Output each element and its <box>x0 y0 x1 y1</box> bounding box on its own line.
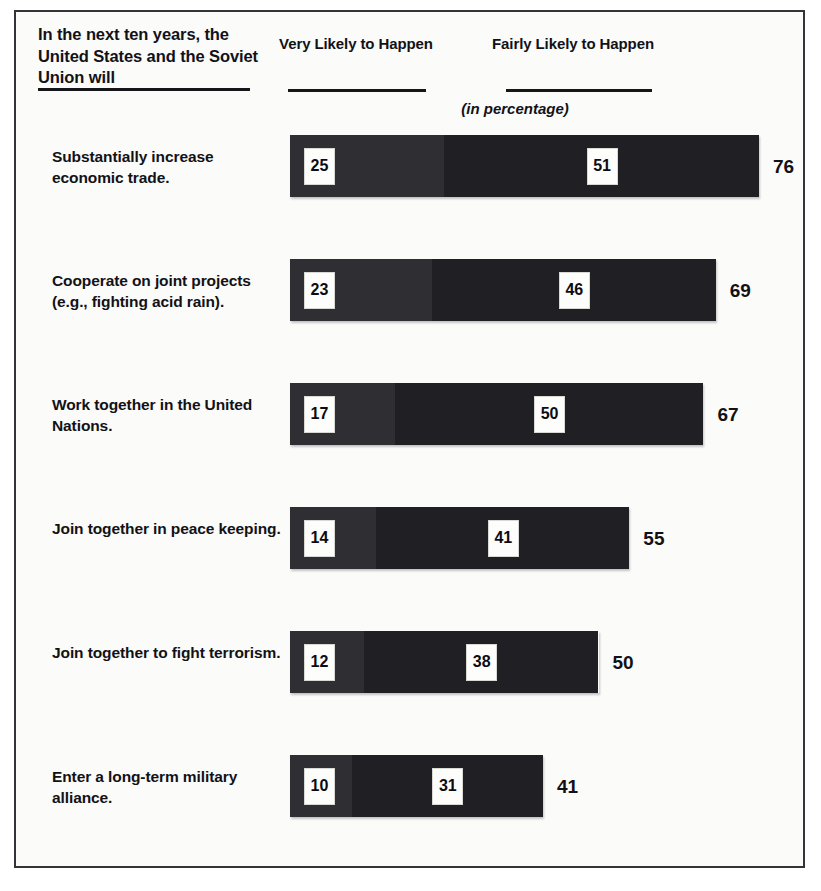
row-total-label: 50 <box>613 652 634 674</box>
bar-segment-very-likely: 25 <box>290 135 444 197</box>
value-label-very-likely: 17 <box>304 396 335 433</box>
bar-segment-very-likely: 17 <box>290 383 395 445</box>
bar-segment-fairly-likely: 38 <box>364 631 598 693</box>
row-label: Cooperate on joint projects (e.g., fight… <box>52 271 284 312</box>
value-label-fairly-likely: 31 <box>432 768 463 805</box>
row-total-label: 67 <box>717 404 738 426</box>
bar-segment-very-likely: 12 <box>290 631 364 693</box>
row-total-label: 76 <box>773 156 794 178</box>
value-label-fairly-likely: 50 <box>534 396 565 433</box>
row-total-label: 41 <box>557 776 578 798</box>
row-label: Join together in peace keeping. <box>52 519 284 540</box>
stacked-bar: 1750 <box>290 383 703 445</box>
bar-segment-very-likely: 10 <box>290 755 352 817</box>
stacked-bar: 1441 <box>290 507 629 569</box>
row-label: Work together in the United Nations. <box>52 395 284 436</box>
value-label-very-likely: 14 <box>304 520 335 557</box>
row-label: Join together to fight terrorism. <box>52 643 284 664</box>
row-total-label: 69 <box>730 280 751 302</box>
stacked-bar: 1238 <box>290 631 599 693</box>
row-total-label: 55 <box>643 528 664 550</box>
chart-frame: In the next ten years, the United States… <box>14 10 805 868</box>
bar-segment-fairly-likely: 31 <box>352 755 543 817</box>
row-label: Enter a long-term military alliance. <box>52 767 284 808</box>
bar-segment-fairly-likely: 50 <box>395 383 704 445</box>
bar-segment-fairly-likely: 46 <box>432 259 716 321</box>
chart-row: Join together to fight terrorism.123850 <box>16 621 803 745</box>
value-label-fairly-likely: 38 <box>466 644 497 681</box>
value-label-fairly-likely: 41 <box>488 520 519 557</box>
value-label-very-likely: 12 <box>304 644 335 681</box>
bar-segment-very-likely: 23 <box>290 259 432 321</box>
row-label: Substantially increase economic trade. <box>52 147 284 188</box>
bar-segment-fairly-likely: 41 <box>376 507 629 569</box>
chart-row: Work together in the United Nations.1750… <box>16 373 803 497</box>
value-label-fairly-likely: 51 <box>587 148 618 185</box>
value-label-very-likely: 23 <box>304 272 335 309</box>
stacked-bar: 1031 <box>290 755 543 817</box>
chart-row: Cooperate on joint projects (e.g., fight… <box>16 249 803 373</box>
stacked-bar: 2346 <box>290 259 716 321</box>
bar-segment-fairly-likely: 51 <box>444 135 759 197</box>
chart-rows: Substantially increase economic trade.25… <box>16 12 803 866</box>
chart-row: Enter a long-term military alliance.1031… <box>16 745 803 869</box>
stacked-bar: 2551 <box>290 135 759 197</box>
value-label-very-likely: 25 <box>304 148 335 185</box>
value-label-fairly-likely: 46 <box>559 272 590 309</box>
value-label-very-likely: 10 <box>304 768 335 805</box>
chart-row: Substantially increase economic trade.25… <box>16 125 803 249</box>
chart-row: Join together in peace keeping.144155 <box>16 497 803 621</box>
bar-segment-very-likely: 14 <box>290 507 376 569</box>
